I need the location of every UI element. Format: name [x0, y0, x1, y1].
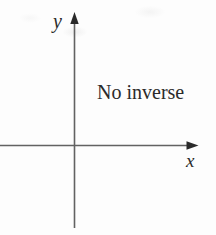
y-axis-label: y [53, 11, 62, 31]
axes-canvas [0, 0, 216, 235]
x-axis-arrowhead-icon [187, 141, 199, 149]
coordinate-axes-figure: y x No inverse [0, 0, 216, 235]
y-axis-arrowhead-icon [70, 12, 78, 24]
x-axis-label: x [186, 151, 194, 170]
no-inverse-annotation: No inverse [97, 80, 184, 104]
